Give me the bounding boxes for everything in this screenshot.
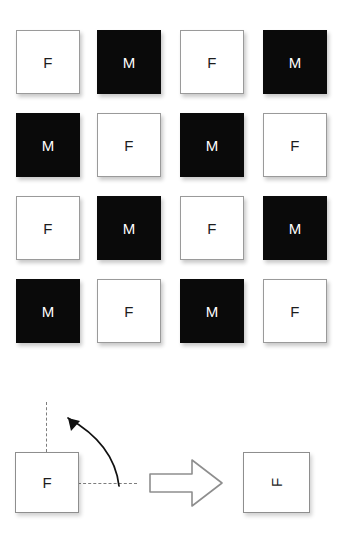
grid-card: M [16, 279, 80, 343]
result-square-label: F [268, 478, 285, 487]
card-grid: F M F M M F M F F M F [0, 0, 345, 380]
grid-card: F [263, 113, 327, 177]
card-label: F [124, 138, 133, 153]
source-square: F [15, 452, 79, 513]
grid-card: M [97, 30, 161, 94]
grid-card: F [97, 279, 161, 343]
block-arrow-right-icon [148, 457, 224, 509]
card-label: M [42, 138, 55, 153]
result-square: F [243, 452, 310, 513]
card-label: F [207, 221, 216, 236]
grid-card: M [97, 196, 161, 260]
card-label: F [290, 138, 299, 153]
figure-canvas: F M F M M F M F F M F [0, 0, 345, 544]
source-square-label: F [42, 474, 51, 491]
grid-card: M [180, 113, 244, 177]
grid-card: F [180, 30, 244, 94]
rotation-diagram: F F [0, 390, 345, 544]
grid-card: F [180, 196, 244, 260]
grid-card: F [263, 279, 327, 343]
card-label: M [289, 55, 302, 70]
card-label: F [207, 55, 216, 70]
grid-card: M [263, 196, 327, 260]
card-label: M [123, 55, 136, 70]
grid-card: F [16, 196, 80, 260]
card-label: M [206, 138, 219, 153]
grid-card: M [263, 30, 327, 94]
card-label: F [290, 304, 299, 319]
card-label: F [43, 221, 52, 236]
card-label: M [289, 221, 302, 236]
grid-card: F [97, 113, 161, 177]
grid-card: M [180, 279, 244, 343]
card-label: M [123, 221, 136, 236]
card-label: M [206, 304, 219, 319]
grid-card: M [16, 113, 80, 177]
card-label: F [124, 304, 133, 319]
grid-card: F [16, 30, 80, 94]
card-label: M [42, 304, 55, 319]
card-label: F [43, 55, 52, 70]
